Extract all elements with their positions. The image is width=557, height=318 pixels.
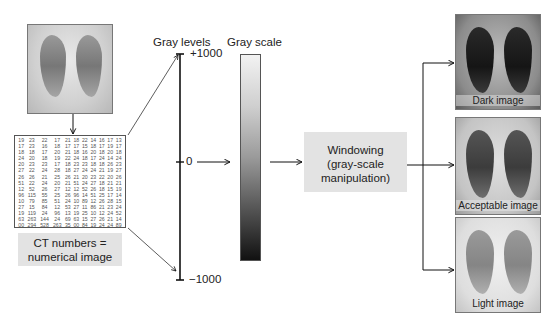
matrix-cell: 22 [98,174,106,180]
matrix-cell: 27 [115,167,124,173]
windowing-line3: manipulation) [304,171,407,185]
matrix-cell: 18 [98,180,106,186]
windowing-line1: Windowing [304,143,407,157]
matrix-cell: 19 [115,186,124,192]
matrix-cell: 00 [17,222,25,228]
ct-number-matrix: 1923221721182214161713172316181717151817… [14,135,126,228]
dark-image-label: Dark image [456,95,540,106]
ct-caption-line2: numerical image [18,250,122,264]
matrix-cell: 21 [115,180,124,186]
matrix-row: 2722242818272424211927 [17,167,123,173]
matrix-row: 1252262712125226181519 [17,186,123,192]
gray-level-max-label: +1000 [190,47,222,59]
matrix-cell: 528 [38,222,51,228]
ct-caption-line1: CT numbers = [18,236,122,250]
matrix-cell: 18 [64,167,72,173]
matrix-cell: 89 [115,222,124,228]
matrix-cell: 24 [81,167,89,173]
gray-level-mid-label: 0 [186,155,192,167]
matrix-table: 1923221721182214161713172316181717151817… [17,137,123,228]
matrix-cell: 18 [98,186,106,192]
ct-numbers-caption: CT numbers = numerical image [18,233,122,266]
matrix-cell: 84 [81,222,89,228]
matrix-cell: 21 [64,180,72,186]
acceptable-image-label: Acceptable image [456,200,540,211]
matrix-cell: 12 [64,186,72,192]
light-image-label: Light image [456,298,540,309]
dark-image: Dark image [455,14,541,110]
matrix-cell: 24 [106,222,114,228]
gray-scale-title: Gray scale [227,36,282,48]
matrix-cell: 35 [64,222,72,228]
windowing-box: Windowing (gray-scale manipulation) [304,132,407,192]
matrix-cell: 19 [89,222,97,228]
matrix-cell: 52 [81,186,89,192]
matrix-cell: 26 [115,174,124,180]
matrix-cell: 24 [81,180,89,186]
original-xray-image [27,24,113,114]
matrix-row: 0029452826335008419242489 [17,222,123,228]
gray-scale-bar [240,54,261,261]
matrix-cell: 24 [98,222,106,228]
matrix-cell: 26 [64,174,72,180]
matrix-row: 2626212526212023222026 [17,174,123,180]
windowing-line2: (gray-scale [304,157,407,171]
matrix-cell: 294 [25,222,38,228]
light-image: Light image [455,217,541,313]
matrix-cell: 263 [51,222,64,228]
acceptable-image: Acceptable image [455,117,541,215]
matrix-cell: 00 [72,222,80,228]
matrix-cell: 21 [98,167,106,173]
matrix-row: 5122242021512427182121 [17,180,123,186]
matrix-cell: 20 [81,174,89,180]
gray-level-min-label: −1000 [189,273,221,285]
